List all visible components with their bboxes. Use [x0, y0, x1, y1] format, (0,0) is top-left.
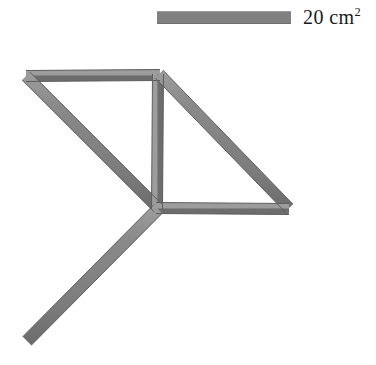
member-vertical-post [157, 74, 158, 209]
member-edge-line [30, 72, 162, 204]
area-legend-value: 20 [303, 6, 324, 28]
members-group [26, 74, 289, 341]
area-legend: 20 cm2 [157, 2, 372, 32]
area-legend-swatch [157, 11, 291, 24]
member-edge-line [155, 78, 285, 212]
member-right-diagonal [159, 74, 289, 208]
member-bottom-chord [156, 208, 289, 209]
area-legend-label: 20 cm2 [303, 7, 361, 27]
truss-diagram [0, 0, 376, 365]
member-edge-line [163, 70, 293, 204]
member-edge-line [31, 213, 162, 345]
member-edge-line [22, 80, 154, 212]
member-left-diagonal [26, 76, 158, 208]
area-legend-unit: cm [329, 6, 354, 28]
area-legend-exponent: 2 [354, 5, 361, 19]
figure-root: 20 cm2 [0, 0, 376, 365]
member-edge-line [23, 205, 154, 337]
member-lower-left-diagonal [27, 209, 158, 341]
member-top-chord [26, 75, 160, 76]
